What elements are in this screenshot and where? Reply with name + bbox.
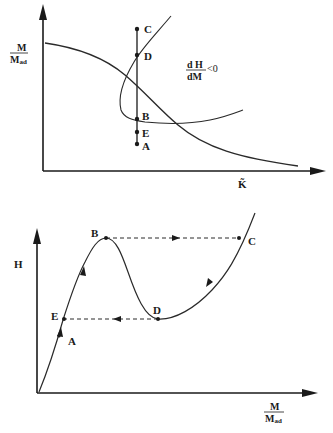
bottom-point-c — [237, 236, 241, 240]
top-x-axis-arrow-icon — [310, 167, 326, 175]
annotation-numerator: d H — [187, 59, 203, 70]
bottom-x-axis-arrow-icon — [302, 389, 318, 397]
bottom-point-a — [57, 334, 60, 337]
bottom-hysteresis-curve — [39, 213, 255, 392]
top-label-b: B — [142, 110, 150, 122]
bottom-label-c: C — [248, 235, 256, 247]
annotation-denominator: dM — [187, 71, 203, 82]
bottom-x-axis-label: M Mad — [264, 401, 284, 425]
bottom-label-a: A — [68, 335, 76, 347]
bottom-diagram: B C D E A H M Mad — [14, 213, 318, 425]
bottom-y-axis-label: H — [14, 258, 23, 270]
bottom-label-d: D — [153, 304, 161, 316]
annotation-relation: <0 — [207, 63, 218, 74]
top-y-axis-label: M Mad — [10, 42, 28, 66]
bottom-point-d — [156, 317, 160, 321]
top-label-e: E — [142, 127, 149, 139]
bottom-point-e — [62, 317, 66, 321]
arrow-b-c-icon — [172, 235, 180, 241]
top-y-axis-arrow-icon — [39, 4, 47, 20]
top-fold-curve — [120, 16, 243, 124]
top-point-d — [135, 53, 139, 57]
bottom-label-b: B — [91, 227, 99, 239]
top-x-axis-label: K̃ — [238, 178, 247, 190]
top-label-c: C — [144, 23, 152, 35]
figure: C D B E A M Mad d H dM <0 K̃ — [0, 0, 333, 433]
bottom-x-label-numerator: M — [270, 401, 280, 412]
bottom-y-axis-arrow-icon — [33, 228, 41, 244]
top-point-e — [135, 130, 139, 134]
top-label-d: D — [144, 50, 152, 62]
bottom-x-label-denominator: Mad — [265, 413, 282, 425]
top-derivative-annotation: d H dM <0 — [186, 59, 218, 82]
top-y-label-numerator: M — [17, 42, 27, 53]
top-diagram: C D B E A M Mad d H dM <0 K̃ — [10, 4, 326, 190]
arrow-d-e-icon — [113, 316, 121, 322]
top-point-c — [135, 27, 139, 31]
top-point-b — [135, 117, 139, 121]
bottom-point-b — [104, 236, 108, 240]
top-label-a: A — [142, 140, 150, 152]
top-y-label-denominator: Mad — [10, 54, 27, 66]
top-sigmoid-curve — [45, 43, 298, 166]
top-point-a — [135, 142, 139, 146]
arrow-c-d-icon — [206, 278, 213, 287]
bottom-label-e: E — [51, 310, 58, 322]
